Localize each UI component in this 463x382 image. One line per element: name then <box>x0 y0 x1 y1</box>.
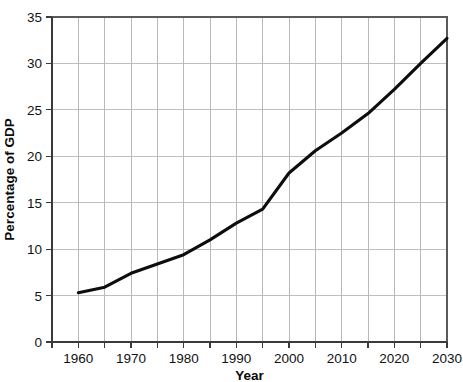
y-tick-label: 10 <box>27 242 42 257</box>
chart-container: 19601970198019902000201020202030 0510152… <box>0 0 463 382</box>
y-tick-label: 15 <box>27 196 42 211</box>
x-tick-label: 2010 <box>327 351 357 366</box>
line-chart: 19601970198019902000201020202030 0510152… <box>0 0 463 382</box>
y-tick-label: 30 <box>27 56 42 71</box>
y-tick-label: 5 <box>34 289 42 304</box>
x-tick-label: 1990 <box>221 351 251 366</box>
x-axis-ticks <box>52 342 447 348</box>
x-tick-label: 1980 <box>169 351 199 366</box>
x-tick-label: 1960 <box>63 351 93 366</box>
x-axis-tick-labels: 19601970198019902000201020202030 <box>63 351 462 366</box>
grid-lines <box>52 17 447 342</box>
y-tick-label: 25 <box>27 103 42 118</box>
y-axis-ticks <box>46 17 52 342</box>
y-tick-label: 35 <box>27 10 42 25</box>
x-tick-label: 2030 <box>432 351 462 366</box>
x-tick-label: 2020 <box>379 351 409 366</box>
y-tick-label: 0 <box>34 335 42 350</box>
y-tick-label: 20 <box>27 149 42 164</box>
plot-area-border <box>52 17 447 342</box>
axis-lines <box>52 17 447 342</box>
x-tick-label: 2000 <box>274 351 304 366</box>
y-axis-tick-labels: 05101520253035 <box>27 10 42 350</box>
x-axis-title: Year <box>235 368 264 382</box>
y-axis-title: Percentage of GDP <box>2 118 17 240</box>
x-tick-label: 1970 <box>116 351 146 366</box>
